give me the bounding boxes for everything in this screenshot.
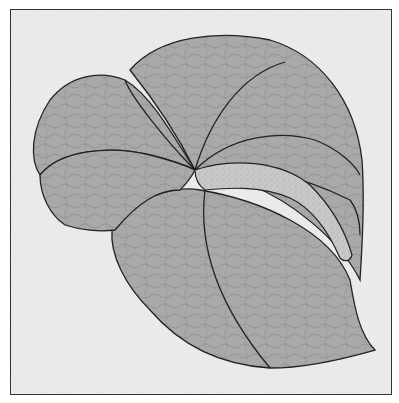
leaf-illustration bbox=[0, 0, 399, 403]
